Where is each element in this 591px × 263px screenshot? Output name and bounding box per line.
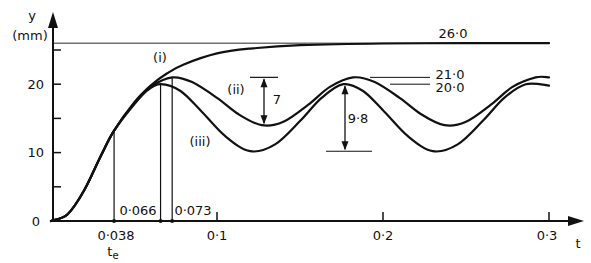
chart-svg: y (mm) t 0 10 20 0·1 0·2 0·3 0·038 te 0·…: [0, 0, 591, 263]
amplitude-ii-label: 7: [273, 92, 281, 107]
x-ticks: [217, 212, 549, 221]
curve-ii: [51, 77, 549, 221]
y-tick-label-10: 10: [27, 145, 44, 160]
x-axis-arrow-icon: [568, 216, 584, 226]
time-marker-dot: [112, 219, 116, 223]
final-value-label: 26·0: [439, 26, 468, 41]
amplitude-iii-label: 9·8: [348, 111, 369, 126]
peak-time-ii-label: 0·073: [174, 203, 211, 218]
curve-iii: [51, 83, 549, 221]
y-axis-arrow-icon: [48, 12, 58, 28]
time-marker-dot: [159, 219, 163, 223]
curve-iii-label: (iii): [190, 134, 211, 149]
curve-ii-label: (ii): [227, 82, 244, 97]
reference-lines: [53, 43, 550, 223]
arrow-down-icon: [261, 115, 268, 124]
axes: [53, 22, 572, 221]
y-axis-label: y: [28, 8, 36, 23]
arrow-down-icon: [342, 141, 349, 150]
x-axis-label: t: [575, 236, 580, 251]
x-tick-label-0.3: 0·3: [537, 228, 558, 243]
te-symbol-label: te: [107, 244, 118, 261]
arrow-up-icon: [342, 85, 349, 94]
arrow-up-icon: [261, 78, 268, 87]
y-ticks: [53, 50, 61, 187]
curve-i: [51, 43, 549, 221]
peak-time-iii-label: 0·066: [119, 203, 156, 218]
y-tick-label-20: 20: [27, 77, 44, 92]
time-marker-dot: [170, 219, 174, 223]
peak-iii-value-label: 20·0: [436, 80, 465, 95]
response-chart: y (mm) t 0 10 20 0·1 0·2 0·3 0·038 te 0·…: [0, 0, 591, 263]
curves: [51, 43, 549, 221]
x-tick-label-0.2: 0·2: [373, 228, 394, 243]
x-tick-label-0.1: 0·1: [207, 228, 228, 243]
y-unit-label: (mm): [12, 28, 47, 43]
te-value-label: 0·038: [97, 228, 134, 243]
curve-i-label: (i): [153, 50, 167, 65]
y-tick-label-0: 0: [32, 214, 40, 229]
